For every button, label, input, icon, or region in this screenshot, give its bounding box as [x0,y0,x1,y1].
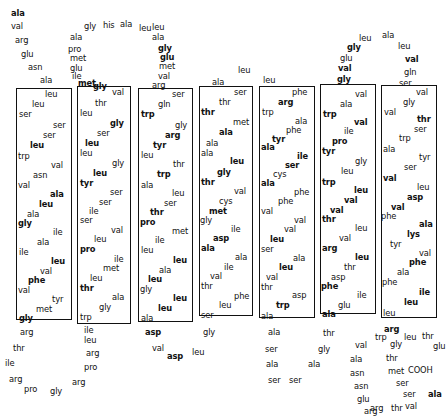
residue-ala: ala [50,190,64,198]
residue-ala: ala [268,328,280,336]
residue-ser: ser [403,390,416,398]
residue-ala: ala [261,179,275,187]
residue-val: val [339,234,351,242]
residue-glu: glu [340,54,353,62]
residue-leu: leu [355,253,369,261]
residue-ala: ala [397,268,409,276]
residue-phe: phe [28,276,45,284]
residue-ser: ser [396,379,409,387]
residue-ala: ala [112,293,124,301]
residue-leu: leu [279,263,293,271]
residue-leu: leu [90,274,102,282]
residue-leu: leu [398,42,410,50]
residue-gly: gly [217,168,231,176]
residue-thr: thr [386,354,398,362]
residue-ile: ile [231,225,240,233]
residue-ser: ser [80,216,93,224]
residue-leu: leu [192,348,204,356]
residue-leu: leu [158,304,172,312]
residue-arg: arg [152,81,165,89]
residue-ala: ala [201,244,215,252]
residue-asn: asn [33,171,47,179]
residue-met: met [388,367,404,375]
residue-ala: ala [235,253,247,261]
residue-gly: gly [99,303,111,311]
residue-trp: trp [157,170,171,178]
residue-ser: ser [53,121,66,129]
residue-leu: leu [32,100,44,108]
residue-thr: thr [422,332,434,340]
residue-ala: ala [350,355,362,363]
residue-asp: asp [167,352,183,360]
residue-COOH: COOH [408,366,433,374]
residue-arg: arg [9,375,22,383]
residue-leu: leu [141,151,153,159]
residue-ala: ala [266,360,278,368]
residue-val: val [355,341,367,349]
residue-leu: leu [173,256,187,264]
residue-met: met [233,118,249,126]
residue-gly: gly [93,82,107,90]
residue-leu: leu [141,246,153,254]
residue-val: val [354,118,368,126]
residue-ser: ser [289,376,302,384]
residue-gly: gly [403,98,415,106]
residue-leu: leu [172,189,184,197]
residue-val: val [18,286,30,294]
residue-val: val [18,181,30,189]
residue-ile: ile [344,127,353,135]
residue-ala: ala [219,128,233,136]
residue-pro: pro [332,137,347,145]
residue-ile: ile [155,236,164,244]
residue-gly: gly [347,43,361,51]
residue-trp: trp [276,301,290,309]
residue-glu: glu [357,395,370,403]
residue-ala: ala [11,9,25,17]
residue-gln: gln [404,68,417,76]
residue-thr: thr [80,284,94,292]
residue-val: val [112,88,124,96]
residue-ser: ser [164,199,177,207]
residue-gly: gly [318,345,330,353]
residue-phe: phe [321,282,338,290]
residue-val: val [284,225,296,233]
residue-ser: ser [110,188,123,196]
residue-tyr: tyr [80,179,93,187]
residue-ile: ile [84,326,93,334]
residue-asn: asn [350,369,364,377]
residue-leu: leu [51,257,65,265]
residue-tyr: tyr [52,295,63,303]
residue-leu: leu [148,275,162,283]
residue-leu: leu [355,224,367,232]
residue-tyr: tyr [322,147,335,155]
residue-met: met [103,264,119,272]
residue-val: val [416,88,428,96]
residue-trp: trp [375,333,387,341]
residue-thr: thr [322,215,336,223]
residue-ser: ser [414,125,427,133]
residue-gly: gly [337,75,351,83]
residue-phe: phe [382,278,397,286]
residue-ala: ala [37,238,49,246]
residue-ser: ser [97,129,110,137]
residue-thr: thr [173,160,185,168]
residue-ser: ser [201,311,214,319]
residue-phe: phe [294,188,309,196]
residue-gly: gly [84,22,96,30]
residue-leu: leu [238,66,250,74]
residue-thr: thr [261,283,273,291]
residue-asn: asn [354,382,368,390]
residue-leu: leu [84,336,96,344]
residue-ile: ile [5,359,14,367]
residue-trp: trp [80,313,92,321]
residue-asp: asp [292,291,306,299]
residue-ser: ser [99,198,112,206]
residue-gly: gly [175,121,187,129]
residue-pro: pro [140,218,155,226]
residue-his: his [103,21,115,29]
residue-ala: ala [308,360,320,368]
residue-ala: ala [322,310,336,318]
residue-trp: trp [322,178,336,186]
residue-leu: leu [173,294,187,302]
residue-ile: ile [53,228,62,236]
